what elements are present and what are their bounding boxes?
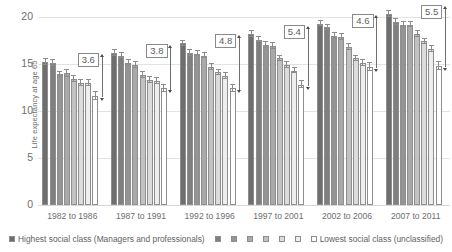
error-cap-bottom xyxy=(429,51,434,52)
error-cap-bottom xyxy=(195,55,200,56)
error-cap-bottom xyxy=(346,49,351,50)
gap-arrowhead-bottom xyxy=(237,90,241,93)
error-cap-top xyxy=(284,61,289,62)
error-cap-bottom xyxy=(78,85,83,86)
bar xyxy=(393,22,399,205)
error-cap-bottom xyxy=(393,24,398,25)
error-cap-top xyxy=(393,18,398,19)
bar xyxy=(194,54,200,205)
life-expectancy-bar-chart: Life expectancy at age 65 20151050 3.63.… xyxy=(0,0,452,252)
bar xyxy=(346,47,352,205)
error-cap-top xyxy=(292,67,297,68)
error-cap-top xyxy=(263,41,268,42)
error-cap-bottom xyxy=(256,41,261,42)
bar xyxy=(291,71,297,205)
bar xyxy=(42,62,48,205)
gap-label: 4.6 xyxy=(352,14,373,28)
legend-swatch-4 xyxy=(247,236,253,242)
error-cap-top xyxy=(270,42,275,43)
error-cap-top xyxy=(230,84,235,85)
bar xyxy=(161,88,167,205)
error-cap-top xyxy=(119,52,124,53)
legend-label-highest: Highest social class (Managers and profe… xyxy=(18,234,205,244)
gap-arrowhead-top xyxy=(374,15,378,18)
gap-arrowhead-top xyxy=(443,6,447,9)
error-cap-top xyxy=(332,32,337,33)
error-cap-top xyxy=(202,52,207,53)
error-cap-top xyxy=(195,50,200,51)
gap-label: 4.8 xyxy=(215,34,236,48)
error-cap-bottom xyxy=(43,64,48,65)
bar-group-3: 4.8 xyxy=(175,17,244,205)
bar xyxy=(180,43,186,205)
error-cap-top xyxy=(43,58,48,59)
error-cap-top xyxy=(78,79,83,80)
error-cap-top xyxy=(339,33,344,34)
error-cap-top xyxy=(133,61,138,62)
error-cap-top xyxy=(216,69,221,70)
bar xyxy=(248,34,254,205)
gap-arrow xyxy=(102,57,103,97)
error-cap-bottom xyxy=(161,91,166,92)
error-cap-bottom xyxy=(180,45,185,46)
bar xyxy=(187,53,193,205)
bar xyxy=(400,25,406,205)
error-cap-top xyxy=(318,20,323,21)
gap-arrowhead-bottom xyxy=(443,68,447,71)
legend-swatch-5 xyxy=(263,236,269,242)
bar xyxy=(386,14,392,205)
bar xyxy=(154,81,160,205)
error-cap-top xyxy=(367,62,372,63)
x-tick-4: 1997 to 2001 xyxy=(244,211,313,221)
error-cap-bottom xyxy=(360,65,365,66)
bar xyxy=(407,25,413,205)
error-cap-top xyxy=(93,91,98,92)
bar-group-1: 3.6 xyxy=(38,17,107,205)
gap-arrowhead-bottom xyxy=(100,98,104,101)
error-cap-bottom xyxy=(353,60,358,61)
bar xyxy=(270,46,276,205)
error-cap-top xyxy=(180,40,185,41)
gap-arrowhead-top xyxy=(237,35,241,38)
error-cap-top xyxy=(436,61,441,62)
error-cap-top xyxy=(325,24,330,25)
error-cap-bottom xyxy=(147,82,152,83)
x-tick-3: 1992 to 1996 xyxy=(175,211,244,221)
gap-arrowhead-top xyxy=(168,45,172,48)
error-cap-top xyxy=(256,36,261,37)
error-cap-top xyxy=(86,79,91,80)
gap-arrowhead-bottom xyxy=(306,87,310,90)
error-cap-bottom xyxy=(71,81,76,82)
error-cap-top xyxy=(422,38,427,39)
gap-arrow xyxy=(376,18,377,68)
gap-arrowhead-top xyxy=(100,54,104,57)
bar xyxy=(256,40,262,205)
bar xyxy=(201,56,207,205)
x-tick-2: 1987 to 1991 xyxy=(107,211,176,221)
error-cap-top xyxy=(249,30,254,31)
gap-label: 3.6 xyxy=(78,53,99,67)
error-cap-top xyxy=(50,59,55,60)
gap-arrowhead-top xyxy=(306,26,310,29)
bar xyxy=(367,67,373,205)
bar xyxy=(85,83,91,205)
error-cap-top xyxy=(429,45,434,46)
error-cap-bottom xyxy=(299,87,304,88)
bar xyxy=(57,74,63,205)
bar xyxy=(284,65,290,205)
error-cap-bottom xyxy=(119,57,124,58)
error-cap-bottom xyxy=(230,91,235,92)
y-tick-20: 20 xyxy=(11,11,33,21)
error-cap-bottom xyxy=(50,65,55,66)
bar xyxy=(230,88,236,205)
error-cap-bottom xyxy=(332,38,337,39)
error-cap-top xyxy=(346,43,351,44)
bar xyxy=(353,58,359,205)
bar xyxy=(215,72,221,205)
legend-label-lowest: Lowest social class (unclassified) xyxy=(320,234,443,244)
y-tick-0: 0 xyxy=(11,199,33,209)
bar xyxy=(324,27,330,205)
error-cap-top xyxy=(223,72,228,73)
error-cap-bottom xyxy=(86,85,91,86)
gap-arrow xyxy=(239,38,240,90)
